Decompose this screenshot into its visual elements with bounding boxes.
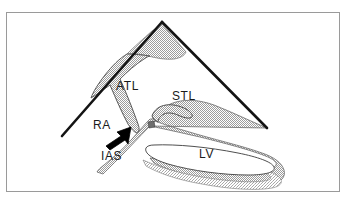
label-stl: STL [172, 90, 196, 102]
label-atl: ATL [116, 80, 139, 92]
leaflet-hinge-point [148, 121, 155, 128]
label-ias: IAS [101, 150, 122, 162]
label-ra: RA [93, 119, 111, 131]
label-lv: LV [199, 148, 214, 160]
sector-left-edge [62, 22, 162, 136]
figure-root: ATL STL RA IAS LV [0, 0, 347, 202]
